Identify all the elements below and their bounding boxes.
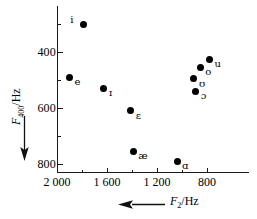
data-point-label: ɪ xyxy=(109,88,112,98)
data-point-label: ɑ xyxy=(182,161,188,171)
data-point xyxy=(174,158,181,165)
x-axis-tick-label: 800 xyxy=(179,176,235,188)
x-axis-title-group: F2/Hz xyxy=(118,195,199,213)
data-point-label: ʊ xyxy=(199,79,205,89)
data-point xyxy=(192,88,199,95)
x-axis-arrow-left-icon xyxy=(118,199,166,210)
y-axis-title-unit: /Hz xyxy=(9,88,23,105)
data-point xyxy=(66,74,73,81)
x-axis-title-unit: /Hz xyxy=(181,194,198,208)
data-point-label: ɔ xyxy=(201,91,207,101)
x-axis-tick-label: 2 000 xyxy=(29,176,85,188)
data-point-label: o xyxy=(205,67,211,77)
data-point xyxy=(197,64,204,71)
data-point-label: e xyxy=(75,77,81,87)
x-axis-title: F2/Hz xyxy=(170,195,199,212)
data-point-label: i xyxy=(70,15,73,25)
data-point xyxy=(206,56,213,63)
x-axis-line xyxy=(57,172,249,173)
y-axis-tick-label: 400 xyxy=(10,46,56,58)
data-point-label: u xyxy=(215,59,221,69)
y-axis-title-group: F400/Hz xyxy=(2,86,36,166)
data-point-label: æ xyxy=(138,151,147,161)
data-point xyxy=(130,148,137,155)
data-point-label: ɛ xyxy=(136,111,141,121)
y-axis-arrow-down-icon xyxy=(19,116,30,162)
x-axis-tick-label: 1 600 xyxy=(79,176,135,188)
x-axis-tick-major xyxy=(207,168,208,173)
data-point xyxy=(80,21,87,28)
x-axis-tick-label: 1 200 xyxy=(129,176,185,188)
vowel-formant-chart: 400600800 2 0001 6001 200800 F400/Hz F2/… xyxy=(0,0,257,219)
